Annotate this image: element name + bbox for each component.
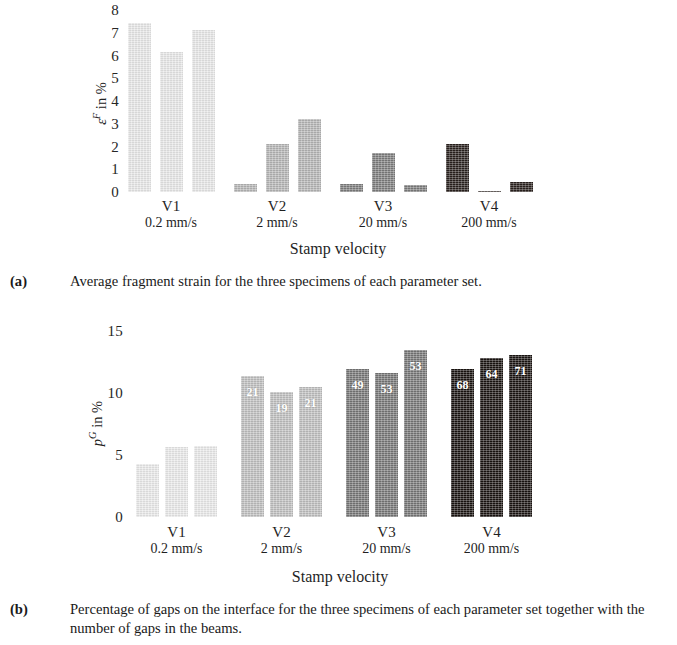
x-group-name: V4	[461, 198, 517, 214]
bar	[446, 144, 469, 192]
bar	[234, 184, 257, 192]
x-group-label: V22 mm/s	[261, 524, 303, 558]
x-group-sublabel: 20 mm/s	[359, 214, 408, 232]
x-axis-group-labels-b: V10.2 mm/sV22 mm/sV320 mm/sV4200 mm/s	[130, 524, 550, 566]
bar-value-label: 21	[305, 397, 317, 409]
bar	[194, 446, 217, 517]
bar	[478, 191, 501, 192]
x-group-label: V10.2 mm/s	[145, 198, 197, 232]
x-axis-title-a: Stamp velocity	[290, 240, 386, 258]
x-group-label: V320 mm/s	[362, 524, 411, 558]
bar: 53	[375, 373, 398, 517]
bar-value-label: 49	[352, 379, 364, 391]
x-group-sublabel: 20 mm/s	[362, 540, 411, 558]
plot-area-b: 211921495353686471	[130, 331, 550, 517]
bar: 19	[270, 392, 293, 517]
y-tick-label: 8	[111, 3, 119, 18]
bar	[192, 30, 215, 192]
bar: 68	[451, 369, 474, 517]
chart-panel-a: εF in % 012345678 V10.2 mm/sV22 mm/sV320…	[0, 0, 677, 258]
x-group-name: V2	[256, 198, 298, 214]
bar-value-label: 53	[381, 383, 393, 395]
y-tick-label: 2	[111, 139, 119, 154]
x-group-name: V2	[261, 524, 303, 540]
x-group-sublabel: 0.2 mm/s	[145, 214, 197, 232]
x-axis-title-b: Stamp velocity	[292, 568, 388, 586]
x-group-name: V1	[145, 198, 197, 214]
y-tick-label: 6	[111, 48, 119, 63]
y-axis-tick-labels-a: 012345678	[95, 0, 119, 200]
x-group-label: V4200 mm/s	[464, 524, 520, 558]
y-tick-label: 10	[108, 386, 123, 401]
bar	[266, 144, 289, 192]
bar-value-label: 64	[486, 368, 498, 380]
x-group-sublabel: 2 mm/s	[256, 214, 298, 232]
y-axis-tick-labels-b: 051015	[95, 318, 123, 517]
x-group-sublabel: 2 mm/s	[261, 540, 303, 558]
bar	[298, 119, 321, 192]
bar	[340, 184, 363, 192]
caption-b-text: Percentage of gaps on the interface for …	[70, 600, 668, 639]
caption-b: (b) Percentage of gaps on the interface …	[10, 600, 668, 639]
bar: 64	[480, 358, 503, 517]
bar	[372, 153, 395, 192]
bars-layer-b: 211921495353686471	[130, 331, 550, 517]
bar-value-label: 19	[276, 402, 288, 414]
y-tick-label: 1	[111, 162, 119, 177]
x-group-name: V3	[362, 524, 411, 540]
x-group-name: V3	[359, 198, 408, 214]
bar	[165, 447, 188, 517]
x-group-label: V4200 mm/s	[461, 198, 517, 232]
bar-value-label: 53	[410, 360, 422, 372]
bar	[510, 182, 533, 192]
bar-value-label: 71	[515, 365, 527, 377]
x-group-name: V1	[150, 524, 202, 540]
x-group-label: V10.2 mm/s	[150, 524, 202, 558]
caption-b-tag: (b)	[10, 600, 28, 619]
bar	[160, 52, 183, 192]
chart-panel-b: pG in % 051015 211921495353686471 V10.2 …	[0, 318, 677, 590]
y-tick-label: 5	[111, 71, 119, 86]
bar: 21	[299, 387, 322, 517]
x-group-label: V320 mm/s	[359, 198, 408, 232]
x-group-sublabel: 200 mm/s	[464, 540, 520, 558]
x-group-sublabel: 0.2 mm/s	[150, 540, 202, 558]
bar	[404, 185, 427, 192]
bar: 53	[404, 350, 427, 517]
bar-value-label: 68	[457, 379, 469, 391]
y-tick-label: 0	[111, 185, 119, 200]
x-axis-group-labels-a: V10.2 mm/sV22 mm/sV320 mm/sV4200 mm/s	[126, 198, 550, 240]
y-tick-label: 5	[115, 448, 123, 463]
y-tick-label: 3	[111, 116, 119, 131]
bar	[128, 23, 151, 192]
bar: 71	[509, 355, 532, 517]
y-tick-label: 4	[111, 94, 119, 109]
caption-a: (a) Average fragment strain for the thre…	[10, 272, 670, 291]
plot-area-a	[126, 10, 550, 192]
x-group-label: V22 mm/s	[256, 198, 298, 232]
bar-value-label: 21	[247, 386, 259, 398]
caption-a-tag: (a)	[10, 272, 27, 291]
bar: 21	[241, 376, 264, 517]
y-tick-label: 7	[111, 25, 119, 40]
caption-a-text: Average fragment strain for the three sp…	[70, 272, 670, 291]
bars-layer-a	[126, 10, 550, 192]
x-group-sublabel: 200 mm/s	[461, 214, 517, 232]
x-group-name: V4	[464, 524, 520, 540]
bar: 49	[346, 369, 369, 517]
y-tick-label: 0	[115, 510, 123, 525]
y-tick-label: 15	[108, 324, 123, 339]
bar	[136, 464, 159, 517]
